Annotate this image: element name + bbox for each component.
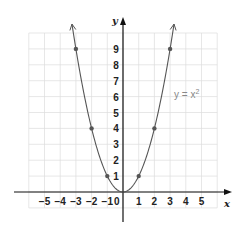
parabola-chart: x y 0 −5−4−3−2−112345 123456789 y = x2: [0, 0, 246, 230]
y-tick-labels: 123456789: [113, 44, 119, 182]
x-tick-label: 4: [183, 196, 189, 207]
y-tick-label: 3: [113, 139, 119, 150]
y-tick-label: 5: [113, 108, 119, 119]
y-axis-arrow-icon: [120, 17, 126, 25]
x-tick-label: −5: [39, 196, 51, 207]
data-point: [74, 47, 78, 51]
y-axis-label: y: [111, 15, 119, 26]
x-tick-label: −3: [70, 196, 82, 207]
y-tick-label: 1: [113, 171, 119, 182]
x-tick-label: 2: [152, 196, 158, 207]
x-tick-labels: −5−4−3−2−112345: [39, 196, 205, 207]
x-tick-label: −1: [102, 196, 114, 207]
y-tick-label: 2: [113, 155, 119, 166]
axes: x y 0: [14, 15, 232, 222]
x-tick-label: −2: [86, 196, 98, 207]
y-tick-label: 7: [113, 76, 119, 87]
x-tick-label: 1: [136, 196, 142, 207]
origin-label: 0: [114, 196, 120, 207]
data-point: [105, 174, 109, 178]
x-axis-label: x: [223, 198, 231, 209]
data-point: [168, 47, 172, 51]
data-point: [152, 126, 156, 130]
data-point: [137, 174, 141, 178]
x-tick-label: 5: [199, 196, 205, 207]
y-tick-label: 6: [113, 92, 119, 103]
equation-label: y = x2: [174, 88, 199, 100]
x-tick-label: 3: [167, 196, 173, 207]
y-tick-label: 8: [113, 60, 119, 71]
y-tick-label: 4: [113, 123, 119, 134]
y-tick-label: 9: [113, 44, 119, 55]
data-point: [89, 126, 93, 130]
x-axis-arrow-icon: [224, 189, 232, 195]
x-tick-label: −4: [54, 196, 66, 207]
